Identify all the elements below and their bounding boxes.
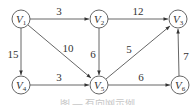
weight-v1-v4: 15: [8, 48, 20, 60]
edge-v6-v3: [178, 29, 179, 76]
weight-v1-v5: 10: [63, 42, 75, 54]
node-v1: V1: [12, 10, 30, 28]
weight-v4-v5: 3: [56, 71, 62, 83]
graph-diagram: 3 12 15 10 6 5 3 6 7 V1 V2 V3 V4 V5 V6: [0, 0, 195, 105]
figure-caption: 图 — 有向网示例: [0, 99, 195, 105]
weight-v5-v6: 6: [138, 71, 144, 83]
weight-v2-v5: 6: [90, 48, 96, 60]
node-v2: V2: [90, 10, 108, 28]
node-v4: V4: [12, 76, 30, 94]
node-v6: V6: [171, 76, 189, 94]
node-v5: V5: [90, 76, 108, 94]
weight-v1-v2: 3: [56, 5, 62, 17]
weight-v2-v3: 12: [133, 5, 144, 17]
weight-v6-v3: 7: [183, 50, 189, 62]
caption-text: 图 — 有向网示例: [0, 99, 195, 105]
weight-v5-v3: 5: [126, 43, 132, 55]
node-v3: V3: [169, 10, 187, 28]
